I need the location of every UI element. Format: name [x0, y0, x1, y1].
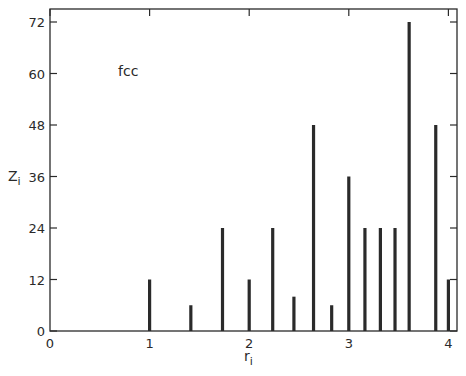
x-axis-label: ri — [244, 348, 253, 368]
y-axis-label-main: Z — [8, 168, 18, 184]
annotation-fcc: fcc — [118, 63, 138, 79]
y-tick-label: 72 — [28, 15, 45, 30]
x-tick-label: 3 — [345, 336, 353, 351]
y-axis-label-sub: i — [18, 175, 21, 188]
y-tick-label: 12 — [28, 273, 45, 288]
y-tick-label: 60 — [28, 67, 45, 82]
y-axis-label: Zi — [8, 168, 21, 188]
x-tick-label: 4 — [444, 336, 452, 351]
y-tick-label: 0 — [37, 324, 45, 339]
y-tick-label: 24 — [28, 221, 45, 236]
chart: 012243648607201234 — [0, 0, 466, 376]
y-tick-label: 48 — [28, 118, 45, 133]
x-axis-label-sub: i — [250, 355, 253, 368]
x-tick-label: 1 — [145, 336, 153, 351]
x-tick-label: 0 — [46, 336, 54, 351]
y-tick-label: 36 — [28, 170, 45, 185]
